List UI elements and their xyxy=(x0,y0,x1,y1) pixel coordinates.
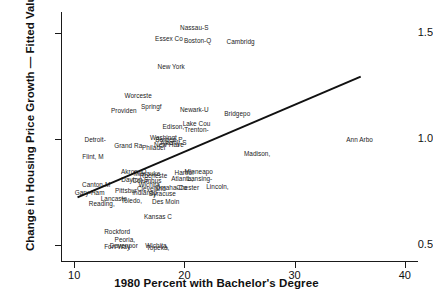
data-point-label: Lansing- xyxy=(187,175,212,182)
x-tick-mark xyxy=(405,262,406,268)
data-point-label: Madison, xyxy=(244,149,270,156)
data-point-label: Nassau-S xyxy=(180,23,208,30)
data-point-label: Reading, xyxy=(89,199,115,206)
data-point-label: Toledo, xyxy=(121,197,142,204)
plot-area: Nassau-SEssex CoBoston-QCambridgNew York… xyxy=(61,10,418,260)
x-axis-line xyxy=(61,261,418,262)
data-point-label: Detroit- xyxy=(84,136,105,143)
x-tick-mark xyxy=(74,262,75,268)
data-point-label: Springf xyxy=(141,103,162,110)
data-point-label: Canton-M xyxy=(82,180,110,187)
data-point-label: Kansas C xyxy=(144,213,172,220)
scatter-plot-figure: 0.51.01.5 10203040 Nassau-SEssex CoBosto… xyxy=(0,0,433,294)
data-point-label: Syracuse xyxy=(149,189,176,196)
y-axis-label: Change in Housing Price Growth — Fitted … xyxy=(24,1,36,251)
data-point-label: Bridgepo xyxy=(224,109,250,116)
data-point-label: Des Moin xyxy=(152,197,179,204)
data-point-label: Providen xyxy=(111,106,137,113)
data-point-label: Newark-U xyxy=(180,106,209,113)
data-point-label: Philadel xyxy=(142,144,165,151)
data-point-label: Grand Ra xyxy=(114,141,142,148)
data-point-label: Trenton- xyxy=(184,125,208,132)
data-point-label: Fort Way xyxy=(104,243,130,250)
data-point-label: Essex Co xyxy=(155,35,183,42)
data-point-label: Cambridg xyxy=(227,38,255,45)
data-point-label: Rockford xyxy=(104,228,130,235)
data-point-label: Chester xyxy=(176,184,199,191)
data-point-label: Topeka, xyxy=(147,244,170,251)
data-point-label: Edison, xyxy=(163,123,185,130)
data-point-label: Boston-Q xyxy=(184,36,211,43)
x-tick-mark xyxy=(184,262,185,268)
data-point-label: Lincoln, xyxy=(206,183,228,190)
data-point-label: Worceste xyxy=(124,92,151,99)
data-point-label: Flint, M xyxy=(82,153,103,160)
data-point-label: New York xyxy=(157,63,184,70)
data-point-label: Ann Arbo xyxy=(346,136,373,143)
x-axis-label: 1980 Percent with Bachelor's Degree xyxy=(0,277,433,289)
x-tick-mark xyxy=(295,262,296,268)
